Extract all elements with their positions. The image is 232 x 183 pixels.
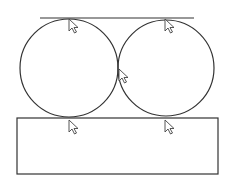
base-rectangle — [17, 118, 218, 174]
cursor-pointer-icon — [165, 120, 174, 134]
diagram-canvas — [0, 0, 232, 183]
right-circle — [118, 20, 214, 116]
cursor-pointer-icon — [165, 19, 174, 33]
cursor-pointer-icon — [69, 120, 78, 134]
left-circle — [20, 19, 118, 117]
cursor-pointer-icon — [69, 19, 78, 33]
